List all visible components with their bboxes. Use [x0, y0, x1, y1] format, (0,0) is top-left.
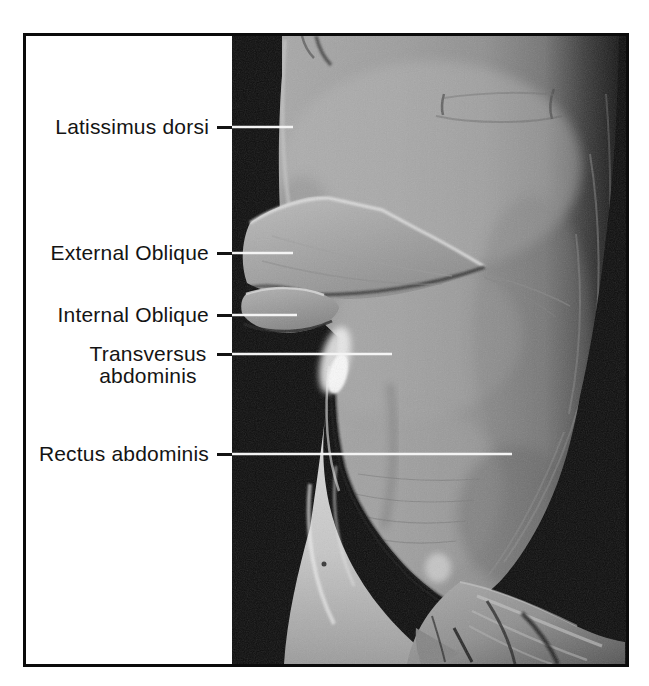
label-external-oblique: External Oblique: [26, 241, 209, 265]
figure-frame: Latissimus dorsi External Oblique Intern…: [23, 33, 629, 667]
label-latissimus-dorsi: Latissimus dorsi: [26, 115, 209, 139]
photo-grain: [232, 36, 626, 664]
label-rectus-abdominis: Rectus abdominis: [26, 442, 209, 466]
label-transversus-abdominis: Transversus abdominis: [82, 343, 214, 387]
anatomy-photo: [232, 36, 626, 664]
leader-dash-external-oblique: [217, 252, 232, 255]
leader-dash-latissimus-dorsi: [217, 126, 232, 129]
label-internal-oblique: Internal Oblique: [26, 303, 209, 327]
leader-dash-internal-oblique: [217, 314, 232, 317]
leader-dash-rectus-abdominis: [217, 453, 232, 456]
page: Latissimus dorsi External Oblique Intern…: [0, 0, 649, 686]
leader-dash-transversus-abdominis: [217, 353, 232, 356]
